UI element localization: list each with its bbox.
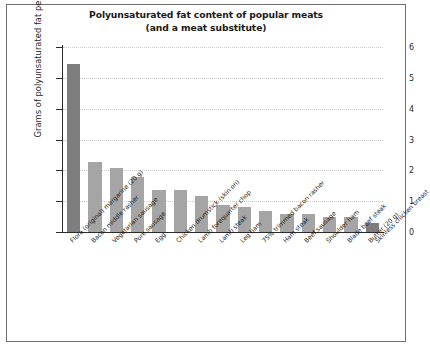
y-tick-mark bbox=[56, 140, 62, 141]
gridline bbox=[63, 78, 383, 79]
bar bbox=[259, 211, 272, 232]
chart-title-line-2: (and a meat substitute) bbox=[6, 22, 406, 35]
bar bbox=[88, 162, 101, 232]
bar bbox=[67, 64, 80, 232]
gridline bbox=[63, 47, 383, 48]
y-tick-mark bbox=[56, 201, 62, 202]
bar bbox=[302, 214, 315, 232]
gridline bbox=[63, 109, 383, 110]
y-axis-line bbox=[62, 45, 63, 232]
chart-title-line-1: Polyunsaturated fat content of popular m… bbox=[6, 9, 406, 22]
y-tick-label: 4 bbox=[368, 104, 414, 113]
x-axis-line bbox=[62, 232, 384, 233]
bar bbox=[280, 214, 293, 232]
plot-area bbox=[63, 47, 383, 232]
y-tick-label: 3 bbox=[368, 135, 414, 144]
y-tick-label: 5 bbox=[368, 73, 414, 82]
bar bbox=[131, 177, 144, 232]
bar bbox=[238, 207, 251, 232]
y-axis-title: Grams of polyunsaturated fat per 100 g bbox=[31, 0, 45, 147]
y-tick-label: 0 bbox=[368, 228, 414, 237]
bar bbox=[174, 190, 187, 232]
y-tick-mark bbox=[56, 170, 62, 171]
y-tick-label: 2 bbox=[368, 166, 414, 175]
bar bbox=[344, 217, 357, 232]
y-tick-mark bbox=[56, 78, 62, 79]
y-tick-label: 1 bbox=[368, 197, 414, 206]
y-tick-mark bbox=[56, 109, 62, 110]
gridline bbox=[63, 140, 383, 141]
bar bbox=[216, 205, 229, 232]
bar bbox=[152, 190, 165, 232]
chart-title: Polyunsaturated fat content of popular m… bbox=[6, 9, 406, 34]
y-tick-label: 6 bbox=[368, 43, 414, 52]
y-tick-mark bbox=[56, 232, 62, 233]
y-tick-mark bbox=[56, 47, 62, 48]
bar bbox=[110, 168, 123, 232]
bar bbox=[323, 217, 336, 232]
bar bbox=[195, 196, 208, 232]
